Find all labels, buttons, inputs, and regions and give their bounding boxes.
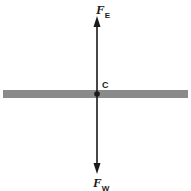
arrow-down-icon bbox=[94, 163, 101, 174]
center-point-dot bbox=[94, 91, 100, 97]
force-label-bottom: FW bbox=[93, 176, 109, 191]
force-diagram bbox=[0, 0, 191, 191]
force-label-top: FE bbox=[96, 3, 110, 20]
center-point-label: C bbox=[102, 80, 109, 90]
